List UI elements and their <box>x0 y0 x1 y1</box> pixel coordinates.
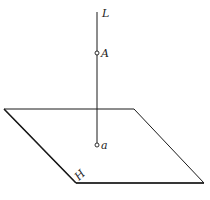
label-l: L <box>101 7 109 20</box>
label-a-upper: A <box>100 47 109 60</box>
plane-h-left-edge <box>4 109 76 183</box>
point-a-lower <box>95 143 99 147</box>
label-a-lower: a <box>101 139 108 152</box>
point-a-upper <box>95 51 99 55</box>
projection-diagram: L A a H <box>0 0 210 200</box>
